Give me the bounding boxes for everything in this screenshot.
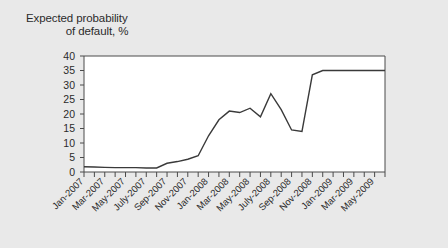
chart-figure: Expected probability of default, % 05101…: [0, 0, 448, 248]
y-tick-label: 10: [63, 137, 75, 149]
y-tick-label: 35: [63, 64, 75, 76]
plot-area-background: [84, 56, 385, 172]
y-tick-label: 25: [63, 93, 75, 105]
y-tick-label: 5: [69, 151, 75, 163]
line-chart-plot: 0510152025303540 Jan-2007Mar-2007May-200…: [0, 0, 448, 248]
y-axis-tick-marks: [80, 56, 84, 172]
y-axis-tick-labels: 0510152025303540: [63, 50, 75, 178]
x-axis-tick-marks: [84, 172, 385, 177]
x-axis-tick-labels: Jan-2007Mar-2007May-2007July-2007Sep-200…: [50, 176, 376, 214]
y-tick-label: 30: [63, 79, 75, 91]
y-tick-label: 20: [63, 108, 75, 120]
y-tick-label: 0: [69, 166, 75, 178]
y-tick-label: 40: [63, 50, 75, 62]
y-tick-label: 15: [63, 122, 75, 134]
